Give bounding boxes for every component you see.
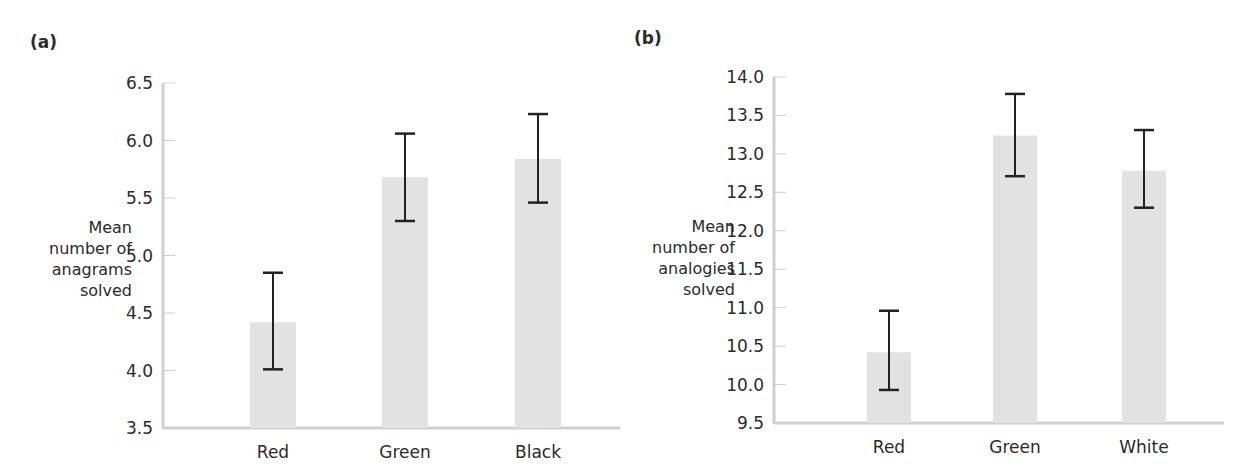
y-tick-label: 4.5 [126, 303, 153, 323]
y-tick-label: 14.0 [726, 67, 764, 87]
y-axis-label: Mean [691, 217, 735, 236]
y-axis-label: solved [683, 280, 735, 299]
y-tick-label: 4.0 [126, 361, 153, 381]
y-axis-label: number of [652, 238, 735, 257]
y-axis-label: anagrams [52, 260, 132, 279]
y-tick-label: 11.0 [726, 298, 764, 318]
y-tick-label: 9.5 [737, 413, 764, 433]
y-tick-label: 13.5 [726, 105, 764, 125]
y-tick-label: 3.5 [126, 418, 153, 438]
x-tick-label: White [1119, 437, 1168, 457]
y-tick-label: 5.5 [126, 188, 153, 208]
chart-anagrams: 3.54.04.55.05.56.06.5Meannumber ofanagra… [0, 0, 620, 475]
y-tick-label: 10.5 [726, 336, 764, 356]
y-axis-label: analogies [658, 259, 735, 278]
y-tick-label: 12.5 [726, 182, 764, 202]
bar-green [993, 135, 1037, 423]
chart-analogies: 9.510.010.511.011.512.012.513.013.514.0M… [620, 0, 1260, 475]
x-tick-label: Green [379, 442, 430, 462]
y-tick-label: 10.0 [726, 375, 764, 395]
x-tick-label: Red [257, 442, 289, 462]
x-tick-label: Red [873, 437, 905, 457]
x-tick-label: Green [989, 437, 1040, 457]
x-tick-label: Black [515, 442, 561, 462]
y-tick-label: 6.5 [126, 73, 153, 93]
y-axis-label: number of [49, 239, 132, 258]
y-tick-label: 6.0 [126, 131, 153, 151]
y-axis-label: solved [80, 281, 132, 300]
y-axis-label: Mean [88, 218, 132, 237]
y-tick-label: 13.0 [726, 144, 764, 164]
